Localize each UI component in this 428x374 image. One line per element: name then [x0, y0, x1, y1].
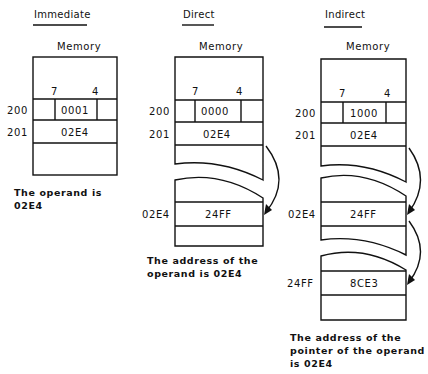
immediate-memory-label: Memory [57, 41, 101, 52]
immediate-panel: Immediate Memory 7 4 200 0001 201 02E4 T… [7, 9, 117, 211]
addressing-modes-diagram: Immediate Memory 7 4 200 0001 201 02E4 T… [0, 0, 428, 374]
indirect-addr-200: 200 [295, 108, 316, 119]
direct-addr-201: 201 [149, 129, 170, 140]
direct-target-address: 02E4 [142, 209, 170, 220]
immediate-opcode-bits: 0001 [61, 105, 89, 116]
direct-bit-low: 4 [236, 86, 243, 97]
indirect-opcode-bits: 1000 [350, 108, 378, 119]
immediate-caption-line2: 02E4 [14, 200, 43, 211]
indirect-pointer-arrow [409, 148, 421, 212]
direct-pointer-arrow [266, 146, 279, 212]
direct-caption-line1: The address of the [147, 255, 258, 266]
indirect-target-value: 8CE3 [350, 278, 378, 289]
indirect-caption-line2: pointer of the operand [290, 345, 425, 356]
indirect-pointer-address: 02E4 [350, 130, 378, 141]
indirect-panel: Indirect Memory 7 4 200 1000 201 02E4 02… [287, 9, 425, 369]
immediate-caption-line1: The operand is [14, 187, 102, 198]
indirect-title: Indirect [325, 9, 365, 20]
immediate-title: Immediate [34, 9, 91, 20]
immediate-bit-high: 7 [51, 86, 58, 97]
indirect-memory-segment-top [321, 59, 406, 182]
indirect-caption-line1: The address of the [290, 332, 401, 343]
indirect-memory-label: Memory [346, 41, 390, 52]
immediate-addr-200: 200 [7, 105, 28, 116]
direct-panel: Direct Memory 7 4 200 0000 201 02E4 02E4… [142, 9, 279, 279]
direct-caption-line2: operand is 02E4 [147, 268, 242, 279]
indirect-operand-arrow [409, 221, 421, 282]
indirect-bit-low: 4 [384, 88, 391, 99]
indirect-caption-line3: is 02E4 [290, 358, 333, 369]
indirect-addr-201: 201 [295, 130, 316, 141]
indirect-target-address: 24FF [287, 278, 314, 289]
direct-memory-label: Memory [199, 41, 243, 52]
direct-title: Direct [183, 9, 215, 20]
indirect-pointer-location: 02E4 [288, 209, 316, 220]
direct-target-value: 24FF [205, 209, 232, 220]
immediate-operand-value: 02E4 [61, 127, 89, 138]
direct-addr-200: 200 [149, 106, 170, 117]
direct-bit-high: 7 [192, 86, 199, 97]
immediate-memory-box [33, 57, 117, 175]
immediate-addr-201: 201 [7, 127, 28, 138]
direct-operand-address: 02E4 [203, 129, 231, 140]
direct-memory-segment-top [175, 57, 263, 180]
indirect-bit-high: 7 [339, 88, 346, 99]
immediate-bit-low: 4 [92, 86, 99, 97]
direct-opcode-bits: 0000 [201, 106, 229, 117]
indirect-pointer-value: 24FF [350, 209, 377, 220]
